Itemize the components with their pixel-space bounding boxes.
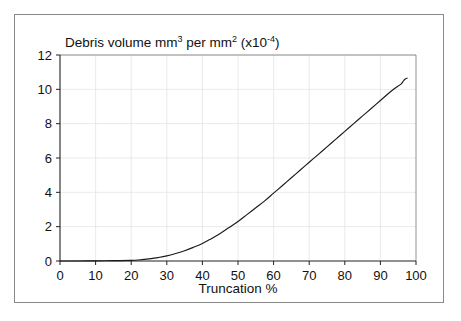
title-superscript: -4 xyxy=(267,34,275,44)
y-tick-label: 12 xyxy=(38,48,52,63)
chart-figure: 024681012 0102030405060708090100 Debris … xyxy=(0,0,461,321)
title-text: Debris volume mm xyxy=(65,35,178,50)
y-tick-label: 6 xyxy=(45,151,52,166)
x-tick-label: 30 xyxy=(160,268,174,283)
chart-canvas: 024681012 0102030405060708090100 Debris … xyxy=(0,0,461,321)
x-axis-title: Truncation % xyxy=(198,281,277,296)
grid-lines xyxy=(60,55,416,261)
y-tick-label: 2 xyxy=(45,219,52,234)
x-tick-label: 80 xyxy=(338,268,352,283)
x-tick-label: 10 xyxy=(88,268,102,283)
title-text: per mm xyxy=(183,35,233,50)
x-tick-label: 0 xyxy=(56,268,63,283)
y-axis-ticks xyxy=(56,55,60,261)
y-tick-label: 8 xyxy=(45,116,52,131)
y-tick-label: 4 xyxy=(45,185,52,200)
data-series-line xyxy=(60,78,407,261)
title-text: ) xyxy=(275,35,280,50)
x-tick-label: 90 xyxy=(373,268,387,283)
x-axis-ticks xyxy=(60,261,416,265)
y-tick-label: 0 xyxy=(45,254,52,269)
y-axis-tick-labels: 024681012 xyxy=(38,48,52,269)
title-text: (x10 xyxy=(237,35,267,50)
x-tick-label: 70 xyxy=(302,268,316,283)
x-tick-label: 100 xyxy=(405,268,427,283)
x-tick-label: 20 xyxy=(124,268,138,283)
plot-title: Debris volume mm3 per mm2 (x10-4) xyxy=(65,34,280,50)
y-tick-label: 10 xyxy=(38,82,52,97)
